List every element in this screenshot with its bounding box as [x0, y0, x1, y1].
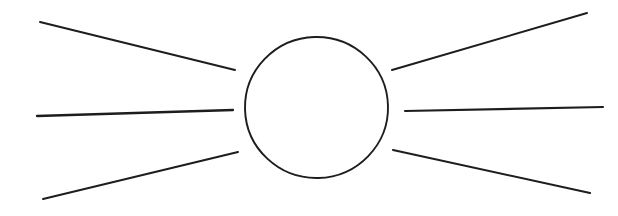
- scattering-blob-diagram: [0, 0, 618, 216]
- diagram-canvas: [0, 0, 618, 216]
